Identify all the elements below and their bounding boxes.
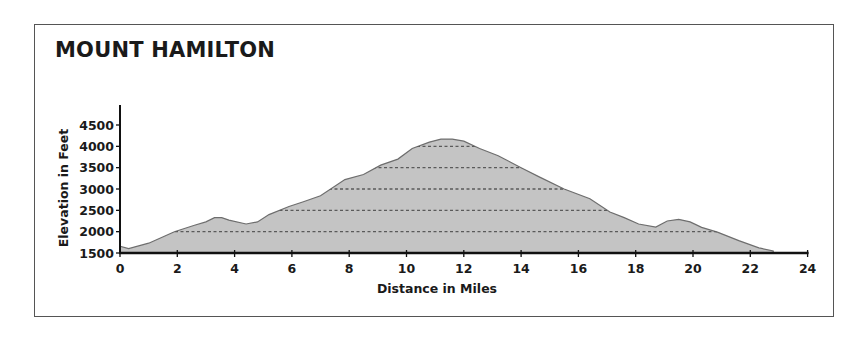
x-tick-label: 18 <box>627 261 644 276</box>
y-tick-label: 2500 <box>79 203 114 218</box>
x-tick-label: 14 <box>512 261 530 276</box>
y-tick-label: 4000 <box>79 139 114 154</box>
x-tick-label: 22 <box>742 261 759 276</box>
x-tick-label: 12 <box>455 261 472 276</box>
y-axis-ticks: 1500200025003000350040004500 <box>79 118 120 261</box>
y-axis-label: Elevation in Feet <box>56 129 71 248</box>
x-tick-label: 16 <box>570 261 588 276</box>
x-tick-label: 10 <box>398 261 416 276</box>
y-tick-label: 3000 <box>79 182 114 197</box>
x-axis-label: Distance in Miles <box>377 281 497 296</box>
y-tick-label: 2000 <box>79 224 114 239</box>
x-tick-label: 6 <box>288 261 297 276</box>
y-tick-label: 1500 <box>79 246 114 261</box>
elevation-chart: 1500200025003000350040004500 02468101214… <box>0 0 867 342</box>
y-tick-label: 4500 <box>79 118 114 133</box>
x-tick-label: 8 <box>345 261 354 276</box>
x-tick-label: 24 <box>799 261 817 276</box>
y-tick-label: 3500 <box>79 160 114 175</box>
x-tick-label: 20 <box>684 261 702 276</box>
x-tick-label: 2 <box>173 261 182 276</box>
x-tick-label: 4 <box>230 261 239 276</box>
elevation-area <box>120 139 773 253</box>
x-tick-label: 0 <box>116 261 125 276</box>
